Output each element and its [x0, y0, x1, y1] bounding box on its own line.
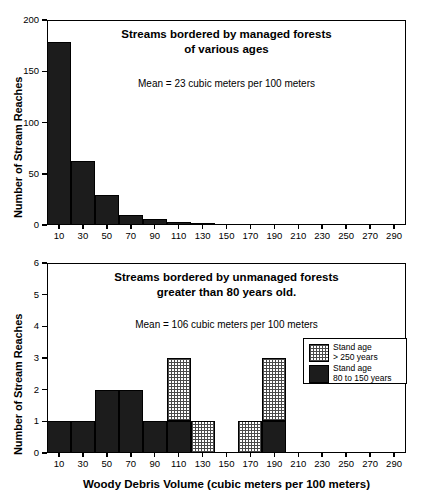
- x-tickmark: [106, 453, 108, 457]
- x-tickmark: [154, 225, 156, 229]
- x-tickmark: [82, 453, 84, 457]
- x-tickmark: [226, 225, 228, 229]
- y-tick-label: 150: [5, 65, 39, 76]
- bar-segment: [119, 215, 143, 225]
- legend-label-0: Stand age > 250 years: [333, 343, 378, 362]
- y-axis-label-top: Number of Stream Reaches: [12, 77, 24, 218]
- y-tick-label: 3: [5, 352, 39, 363]
- mean-annotation-bottom: Mean = 106 cubic meters per 100 meters: [47, 319, 406, 330]
- x-tickmark: [298, 453, 300, 457]
- y-tick-label: 200: [5, 14, 39, 25]
- x-tickmark: [250, 453, 252, 457]
- legend-item-0[interactable]: Stand age > 250 years: [309, 343, 401, 362]
- bar-segment: [95, 195, 119, 225]
- x-tick-label: 290: [380, 230, 408, 241]
- x-tickmark: [154, 453, 156, 457]
- x-tickmark: [321, 453, 323, 457]
- legend-swatch-solid-icon: [309, 365, 329, 383]
- legend-label-0-line2: > 250 years: [333, 352, 378, 362]
- x-tickmark: [274, 225, 276, 229]
- y-tick-label: 2: [5, 384, 39, 395]
- x-tickmark: [202, 453, 204, 457]
- chart-title-top-line1: Streams bordered by managed forests: [47, 27, 406, 42]
- x-tickmark: [369, 225, 371, 229]
- bar-segment: [167, 358, 191, 421]
- legend-label-1-line2: 80 to 150 years: [333, 373, 392, 383]
- chart-title-top: Streams bordered by managed forests of v…: [47, 27, 406, 57]
- chart-panel-unmanaged: Number of Stream Reaches 0123456 1030507…: [0, 250, 422, 499]
- bar-segment: [47, 42, 71, 225]
- bar-segment: [119, 390, 143, 453]
- y-tickmark: [42, 262, 47, 264]
- bar-segment: [143, 219, 167, 225]
- x-tickmark: [345, 453, 347, 457]
- legend-label-1: Stand age 80 to 150 years: [333, 364, 392, 383]
- x-tickmark: [82, 225, 84, 229]
- x-tickmark: [369, 453, 371, 457]
- bar-segment: [143, 421, 167, 453]
- bar-segment: [47, 421, 71, 453]
- x-axis-label-bottom: Woody Debris Volume (cubic meters per 10…: [47, 478, 406, 490]
- y-tick-label: 50: [5, 168, 39, 179]
- x-tickmark: [226, 453, 228, 457]
- x-tick-label: 290: [380, 458, 408, 469]
- y-tickmark: [42, 389, 47, 391]
- legend-label-1-line1: Stand age: [333, 363, 372, 373]
- y-tick-label: 4: [5, 320, 39, 331]
- y-tick-label: 1: [5, 415, 39, 426]
- x-tickmark: [345, 225, 347, 229]
- x-tickmark: [250, 225, 252, 229]
- y-tickmark: [42, 357, 47, 359]
- bar-segment: [71, 421, 95, 453]
- mean-annotation-top: Mean = 23 cubic meters per 100 meters: [47, 78, 406, 89]
- bar-segment: [167, 222, 191, 225]
- x-tickmark: [58, 225, 60, 229]
- y-tick-label: 5: [5, 289, 39, 300]
- legend-box[interactable]: Stand age > 250 years Stand age 80 to 15…: [303, 338, 407, 384]
- x-tickmark: [106, 225, 108, 229]
- x-tickmark: [130, 453, 132, 457]
- bar-segment: [95, 390, 119, 453]
- bar-segment: [167, 421, 191, 453]
- bar-segment: [262, 421, 286, 453]
- x-tickmark: [393, 225, 395, 229]
- x-tickmark: [58, 453, 60, 457]
- bar-segment: [191, 223, 215, 225]
- y-tick-label: 0: [5, 447, 39, 458]
- y-tickmark: [42, 19, 47, 21]
- chart-title-bottom: Streams bordered by unmanaged forests gr…: [47, 270, 406, 300]
- x-tickmark: [321, 225, 323, 229]
- bar-segment: [191, 421, 215, 453]
- figure-root: Number of Stream Reaches 050100150200 10…: [0, 0, 422, 499]
- x-tickmark: [274, 453, 276, 457]
- x-tickmark: [202, 225, 204, 229]
- bar-segment: [262, 358, 286, 421]
- bar-segment: [238, 421, 262, 453]
- x-tickmark: [393, 453, 395, 457]
- bar-segment: [71, 161, 95, 225]
- legend-swatch-hatch-icon: [309, 344, 329, 362]
- chart-title-bottom-line2: greater than 80 years old.: [47, 285, 406, 300]
- legend-item-1[interactable]: Stand age 80 to 150 years: [309, 364, 401, 383]
- chart-title-top-line2: of various ages: [47, 42, 406, 57]
- legend-label-0-line1: Stand age: [333, 342, 372, 352]
- x-tickmark: [178, 453, 180, 457]
- y-tick-label: 100: [5, 117, 39, 128]
- chart-panel-managed: Number of Stream Reaches 050100150200 10…: [0, 0, 422, 250]
- x-tickmark: [178, 225, 180, 229]
- x-tickmark: [130, 225, 132, 229]
- y-tick-label: 6: [5, 257, 39, 268]
- y-tick-label: 0: [5, 219, 39, 230]
- x-tickmark: [298, 225, 300, 229]
- chart-title-bottom-line1: Streams bordered by unmanaged forests: [47, 270, 406, 285]
